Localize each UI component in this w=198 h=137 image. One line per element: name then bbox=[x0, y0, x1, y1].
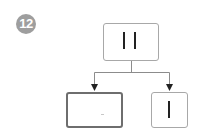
empty-mark bbox=[101, 114, 104, 115]
arrow-left-icon bbox=[91, 84, 98, 91]
child-node-left bbox=[66, 92, 123, 128]
tally-bar-icon bbox=[134, 32, 136, 49]
tally-bar-icon bbox=[123, 32, 125, 49]
tally-bar-icon bbox=[168, 101, 170, 118]
step-number-badge: 12 bbox=[16, 14, 36, 34]
connector-lines bbox=[95, 61, 170, 84]
child-node-right bbox=[151, 92, 188, 128]
root-node bbox=[103, 23, 159, 61]
arrow-right-icon bbox=[166, 84, 173, 91]
